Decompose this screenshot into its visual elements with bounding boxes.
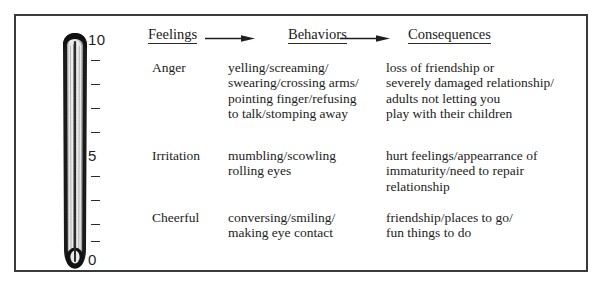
consequences-cheerful: friendship/places to go/ fun things to d… — [386, 210, 586, 241]
thermometer-scale: 10 5 0 — [88, 30, 122, 272]
feeling-anger: Anger — [152, 60, 230, 75]
scale-tick-1 — [91, 241, 100, 242]
scale-label-10: 10 — [88, 32, 105, 47]
behaviors-irritation: mumbling/scowling rolling eyes — [228, 148, 388, 179]
scale-tick-6 — [91, 132, 100, 133]
arrow-feelings-to-behaviors — [205, 34, 255, 43]
feeling-cheerful: Cheerful — [152, 210, 230, 225]
scale-tick-9 — [91, 60, 100, 61]
scale-tick-2 — [91, 224, 100, 225]
feeling-irritation: Irritation — [152, 148, 230, 163]
scale-tick-4 — [91, 176, 100, 177]
arrow-behaviors-to-consequences — [340, 34, 390, 43]
column-headers: Feelings Behaviors Consequences — [0, 0, 610, 26]
scale-label-0: 0 — [88, 252, 97, 267]
scale-tick-3 — [91, 200, 100, 201]
scale-label-5: 5 — [88, 148, 97, 163]
feelings-thermometer — [58, 30, 92, 272]
consequences-irritation: hurt feelings/appearrance of immaturity/… — [386, 148, 586, 194]
consequences-anger: loss of friendship or severely damaged r… — [386, 60, 586, 122]
header-consequences: Consequences — [408, 26, 491, 44]
diagram-canvas: 10 5 0 Feelings Behaviors Consequences — [0, 0, 610, 289]
thermometer-icon — [58, 30, 92, 272]
behaviors-anger: yelling/screaming/ swearing/crossing arm… — [228, 60, 388, 122]
header-behaviors: Behaviors — [288, 26, 347, 44]
header-feelings: Feelings — [148, 26, 197, 44]
thermometer-rail-right — [79, 46, 80, 249]
scale-tick-8 — [91, 84, 100, 85]
scale-tick-7 — [91, 108, 100, 109]
behaviors-cheerful: conversing/smiling/ making eye contact — [228, 210, 388, 241]
